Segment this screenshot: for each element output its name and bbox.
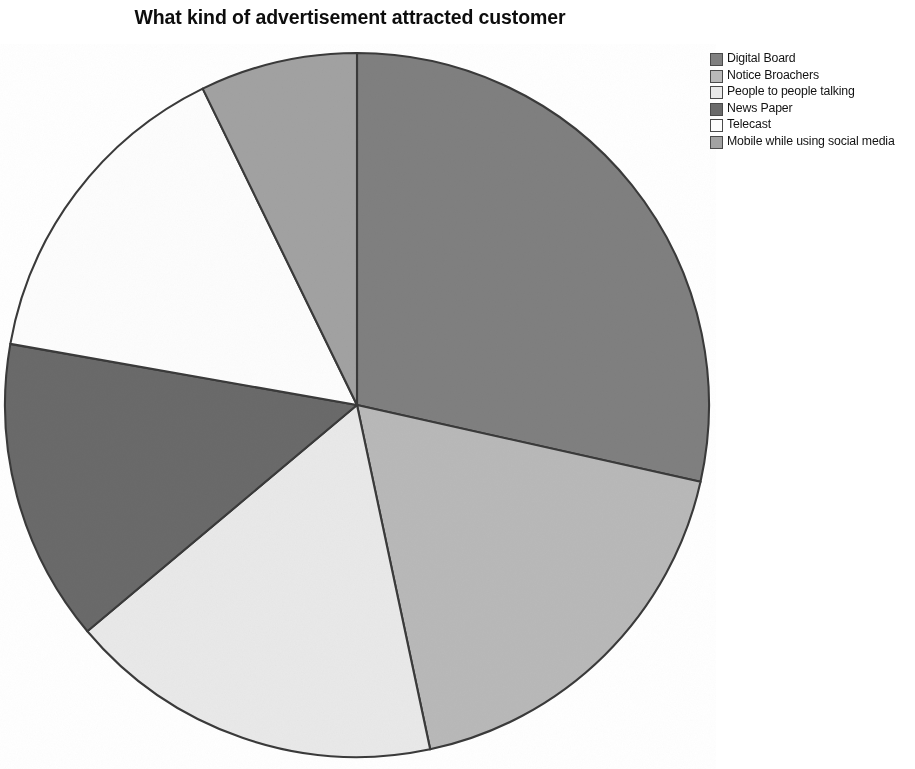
legend-item[interactable]: Telecast xyxy=(710,118,912,132)
chart-legend: Digital BoardNotice BroachersPeople to p… xyxy=(710,52,912,151)
pie-svg: Digital Board: 28.5%Notice Broachers: 18… xyxy=(0,44,716,769)
legend-swatch-icon xyxy=(710,70,723,83)
pie-slice-group: Digital Board: 28.5%Notice Broachers: 18… xyxy=(5,53,709,757)
legend-item[interactable]: Digital Board xyxy=(710,52,912,66)
legend-item-label: Notice Broachers xyxy=(727,69,819,83)
legend-item[interactable]: News Paper xyxy=(710,102,912,116)
pie-chart-figure: What kind of advertisement attracted cus… xyxy=(0,0,915,769)
legend-item-label: People to people talking xyxy=(727,85,855,99)
legend-swatch-icon xyxy=(710,53,723,66)
legend-item-label: News Paper xyxy=(727,102,792,116)
legend-item-label: Telecast xyxy=(727,118,771,132)
legend-swatch-icon xyxy=(710,86,723,99)
legend-item[interactable]: Mobile while using social media xyxy=(710,135,912,149)
legend-item[interactable]: Notice Broachers xyxy=(710,69,912,83)
legend-swatch-icon xyxy=(710,119,723,132)
legend-item[interactable]: People to people talking xyxy=(710,85,912,99)
legend-item-label: Digital Board xyxy=(727,52,795,66)
legend-item-label: Mobile while using social media xyxy=(727,135,895,149)
pie-plot-area: Digital Board: 28.5%Notice Broachers: 18… xyxy=(0,44,716,769)
legend-swatch-icon xyxy=(710,136,723,149)
legend-swatch-icon xyxy=(710,103,723,116)
page-title: What kind of advertisement attracted cus… xyxy=(0,6,700,29)
